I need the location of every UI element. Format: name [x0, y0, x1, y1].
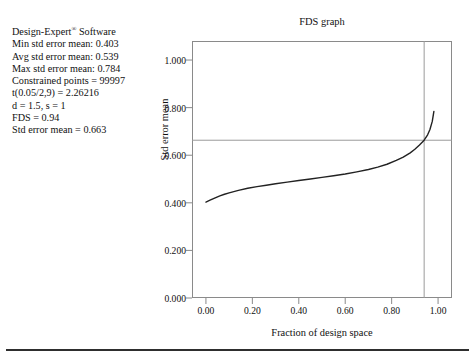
x-axis-tick-label-2: 0.40	[277, 305, 321, 316]
info-line-avg-std-error: Avg std error mean: 0.539	[12, 51, 162, 63]
chart-title: FDS graph	[192, 16, 452, 27]
info-line-d-s: d = 1.5, s = 1	[12, 100, 162, 112]
info-line-t-value: t(0.05/2,9) = 2.26216	[12, 87, 162, 99]
y-axis-tick-label-2: 0.400	[144, 197, 186, 208]
x-axis-tick-label-0: 0.00	[184, 305, 228, 316]
y-axis-title: Std error mean	[159, 84, 170, 176]
info-line-constrained-points: Constrained points = 99997	[12, 75, 162, 87]
fds-chart: Design-Expert® Software Min std error me…	[0, 0, 475, 363]
info-line-std-error-mean: Std error mean = 0.663	[12, 124, 162, 136]
y-axis-tick-label-1: 0.200	[144, 245, 186, 256]
software-info-legend: Design-Expert® Software Min std error me…	[12, 26, 162, 137]
info-line-min-std-error: Min std error mean: 0.403	[12, 38, 162, 50]
registered-trademark-icon: ®	[71, 25, 76, 32]
x-axis-tick-label-1: 0.20	[230, 305, 274, 316]
y-axis-tick-label-5: 1.000	[144, 55, 186, 66]
x-axis-tick-label-3: 0.60	[323, 305, 367, 316]
y-axis-tick-label-0: 0.000	[144, 293, 186, 304]
info-line-title: Design-Expert® Software	[12, 26, 162, 38]
x-axis-title: Fraction of design space	[192, 327, 452, 338]
x-axis-tick-label-5: 1.00	[416, 305, 460, 316]
x-axis-tick-label-4: 0.80	[370, 305, 414, 316]
bottom-divider-rule	[6, 349, 469, 351]
plot-frame	[192, 41, 452, 298]
info-line-max-std-error: Max std error mean: 0.784	[12, 63, 162, 75]
x-axis-tick-labels: 0.000.200.400.600.801.00	[0, 305, 475, 321]
info-line-fds: FDS = 0.94	[12, 112, 162, 124]
